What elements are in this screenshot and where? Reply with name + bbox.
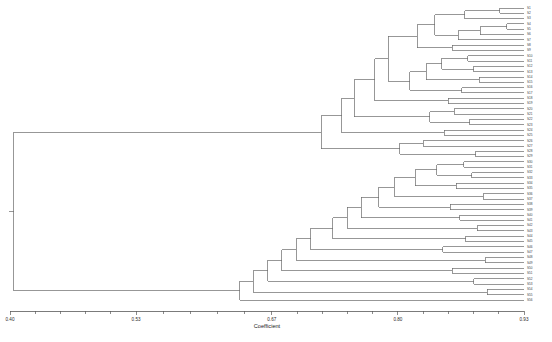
tree-branch xyxy=(448,98,524,103)
tree-branch xyxy=(460,215,524,220)
leaf-label: S12 xyxy=(527,64,533,68)
tree-branch xyxy=(500,8,524,13)
leaf-label: S31 xyxy=(527,165,533,169)
leaf-label: S40 xyxy=(527,213,533,217)
tree-branch xyxy=(507,24,524,29)
leaf-label: S54 xyxy=(527,287,533,291)
leaf-label: S52 xyxy=(527,277,533,281)
axis-tick-label: 0.93 xyxy=(520,317,529,322)
leaf-label: S51 xyxy=(527,271,533,275)
leaf-label: S2 xyxy=(527,11,531,15)
tree-branch xyxy=(458,31,524,40)
tree-branch xyxy=(468,56,524,61)
leaf-label: S38 xyxy=(527,202,533,206)
tree-branch xyxy=(444,130,524,135)
leaf-label: S50 xyxy=(527,266,533,270)
tree-branch xyxy=(321,116,400,149)
leaf-label: S9 xyxy=(527,48,531,52)
leaf-label: S27 xyxy=(527,144,533,148)
leaf-label: S10 xyxy=(527,54,533,58)
tree-branch xyxy=(437,165,472,176)
leaf-label: S41 xyxy=(527,218,533,222)
leaf-label: S25 xyxy=(527,133,533,137)
tree-branch xyxy=(400,143,476,154)
leaf-label: S35 xyxy=(527,186,533,190)
tree-branch xyxy=(342,98,445,132)
tree-branch xyxy=(474,66,524,71)
axis-title: Coefficient xyxy=(254,323,281,329)
tree-branch xyxy=(485,258,524,263)
leaf-label: S28 xyxy=(527,149,533,153)
tree-branch xyxy=(454,109,524,114)
tree-branch xyxy=(423,141,524,146)
leaf-label: S29 xyxy=(527,154,533,158)
leaf-label: S42 xyxy=(527,223,533,227)
dendrogram-canvas: S1S2S3S4S5S6S7S8S9S10S11S12S13S14S15S16S… xyxy=(0,0,552,342)
leaf-label: S22 xyxy=(527,117,533,121)
tree-branch xyxy=(442,58,474,69)
leaf-label: S23 xyxy=(527,123,533,127)
leaf-label: S56 xyxy=(527,298,533,302)
leaf-label: S5 xyxy=(527,27,531,31)
leaf-label: S3 xyxy=(527,16,531,20)
leaf-label: S15 xyxy=(527,80,533,84)
tree-branch xyxy=(430,112,470,123)
leaf-label: S39 xyxy=(527,208,533,212)
leaf-label: S21 xyxy=(527,112,533,116)
leaf-label: S55 xyxy=(527,293,533,297)
tree-branch xyxy=(379,187,451,207)
leaf-label: S37 xyxy=(527,197,533,201)
leaf-label: S6 xyxy=(527,32,531,36)
leaf-label: S48 xyxy=(527,255,533,259)
leaf-label: S47 xyxy=(527,250,533,254)
axis-tick-label: 0.40 xyxy=(6,317,15,322)
leaf-label: S44 xyxy=(527,234,533,238)
leaf-label: S19 xyxy=(527,101,533,105)
tree-branch xyxy=(479,77,524,82)
tree-branch xyxy=(415,170,456,186)
tree-branch xyxy=(466,236,524,241)
leaf-label: S34 xyxy=(527,181,533,185)
tree-branch xyxy=(474,279,524,284)
tree-branch xyxy=(435,15,465,36)
leaf-label: S43 xyxy=(527,229,533,233)
dendrogram-figure: S1S2S3S4S5S6S7S8S9S10S11S12S13S14S15S16S… xyxy=(0,0,552,342)
tree-branch xyxy=(477,226,524,231)
leaf-label: S53 xyxy=(527,282,533,286)
leaf-label: S1 xyxy=(527,6,531,10)
tree-branch xyxy=(452,268,524,273)
leaf-labels-layer: S1S2S3S4S5S6S7S8S9S10S11S12S13S14S15S16S… xyxy=(527,6,533,302)
tree-branch xyxy=(464,162,524,167)
tree-branch xyxy=(487,289,524,294)
tree-branch xyxy=(443,247,524,252)
leaf-label: S49 xyxy=(527,261,533,265)
leaf-label: S17 xyxy=(527,91,533,95)
coefficient-axis: 0.400.530.670.800.93Coefficient xyxy=(6,311,529,329)
leaf-label: S32 xyxy=(527,170,533,174)
tree-branch xyxy=(480,27,524,35)
tree-branch xyxy=(410,72,462,91)
tree-branch xyxy=(426,64,479,80)
tree-branch xyxy=(394,178,483,197)
axis-tick-label: 0.67 xyxy=(267,317,276,322)
leaf-label: S20 xyxy=(527,107,533,111)
tree-branch xyxy=(388,36,417,81)
leaf-label: S18 xyxy=(527,96,533,100)
tree-branch xyxy=(462,88,524,93)
leaf-label: S46 xyxy=(527,245,533,249)
tree-branch xyxy=(452,45,524,50)
tree-branch xyxy=(470,119,524,124)
tree-branch xyxy=(472,173,524,178)
leaf-label: S24 xyxy=(527,128,533,132)
tree-branches-layer xyxy=(9,8,524,300)
leaf-label: S7 xyxy=(527,38,531,42)
tree-branch xyxy=(14,132,321,291)
leaf-label: S33 xyxy=(527,176,533,180)
tree-branch xyxy=(483,194,524,199)
leaf-label: S13 xyxy=(527,70,533,74)
tree-branch xyxy=(354,80,430,117)
axis-tick-label: 0.53 xyxy=(132,317,141,322)
axis-tick-label: 0.80 xyxy=(393,317,402,322)
leaf-label: S26 xyxy=(527,139,533,143)
leaf-label: S4 xyxy=(527,22,531,26)
